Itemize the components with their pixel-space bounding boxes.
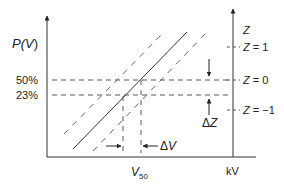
level-50-label: 50% <box>16 75 38 86</box>
v50-var: V <box>131 165 139 179</box>
y-axis-label-prefix: P( <box>12 36 25 51</box>
z-label-minus1: Z = −1 <box>243 105 275 116</box>
z-label-minus1-var: Z <box>243 104 250 116</box>
probability-line <box>73 32 187 149</box>
y-axis-label-suffix: ) <box>34 36 38 51</box>
y-axis-label: P(V) <box>12 37 38 50</box>
y-axis-label-var: V <box>25 36 34 51</box>
lower-bound-line <box>93 33 206 151</box>
right-axis-label: Z <box>243 25 250 36</box>
z-label-0: Z = 0 <box>243 75 268 86</box>
z-label-0-rest: = 0 <box>250 74 269 86</box>
z-label-1-rest: = 1 <box>250 41 269 53</box>
level-23-label: 23% <box>16 90 38 101</box>
x-axis-unit: kV <box>226 166 239 177</box>
delta-z-var: Z <box>210 116 217 130</box>
v50-sub: 50 <box>139 172 148 181</box>
v50-label: V50 <box>131 166 148 181</box>
delta-v-var: V <box>168 139 176 153</box>
upper-bound-line <box>64 33 163 134</box>
z-label-minus1-rest: = −1 <box>250 104 275 116</box>
delta-v-label: ΔV <box>160 140 176 152</box>
delta-v-symbol: Δ <box>160 139 168 153</box>
z-label-0-var: Z <box>243 74 250 86</box>
probability-diagram <box>0 0 284 188</box>
delta-z-symbol: Δ <box>202 116 210 130</box>
delta-z-label: ΔZ <box>202 117 217 129</box>
z-label-1-var: Z <box>243 41 250 53</box>
z-label-1: Z = 1 <box>243 42 268 53</box>
